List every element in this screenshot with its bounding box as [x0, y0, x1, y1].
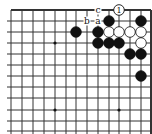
letter-mark-c: c	[95, 5, 100, 15]
black-stone	[125, 49, 136, 60]
star-point	[53, 41, 56, 44]
black-stone	[93, 38, 104, 49]
star-point	[53, 108, 56, 111]
letter-mark-a: a	[95, 16, 101, 26]
black-stone	[136, 49, 147, 60]
black-stone	[93, 27, 104, 38]
black-stone	[114, 38, 125, 49]
go-board-diagram: 1 cba	[0, 0, 152, 134]
letter-marks-layer: cba	[84, 5, 102, 26]
white-stone	[104, 27, 115, 38]
black-stone	[136, 71, 147, 82]
letter-mark-b: b	[84, 16, 90, 26]
white-stone	[125, 27, 136, 38]
move-number-label: 1	[116, 6, 121, 15]
star-point	[117, 108, 120, 111]
white-stone	[114, 27, 125, 38]
black-stone	[136, 16, 147, 27]
black-stone	[71, 27, 82, 38]
black-stone	[104, 38, 115, 49]
white-stone	[136, 38, 147, 49]
black-stone	[104, 16, 115, 27]
white-stone	[136, 27, 147, 38]
